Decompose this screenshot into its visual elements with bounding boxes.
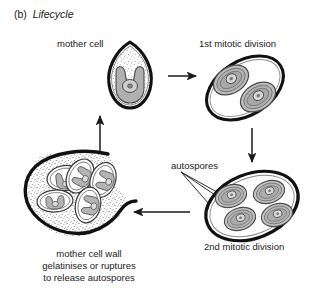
caption-line-1: mother cell wall: [14, 248, 164, 260]
stage-second-mitotic-division: [196, 158, 309, 253]
stage-first-mitotic-division: [195, 43, 295, 133]
caption-release-autospores: mother cell wall gelatinises or ruptures…: [14, 248, 164, 284]
stage-mother-cell: [109, 42, 152, 108]
label-second-mitotic-division: 2nd mitotic division: [204, 241, 284, 253]
lifecycle-figure: (b) Lifecycle mother cell 1st mitotic di…: [0, 0, 316, 302]
label-mother-cell: mother cell: [57, 38, 103, 50]
second-division-wall: [196, 158, 309, 253]
first-division-wall: [195, 43, 295, 133]
label-first-mitotic-division: 1st mitotic division: [199, 38, 276, 50]
stage-released-autospores: [25, 151, 136, 236]
panel-title: Lifecycle: [33, 8, 74, 20]
caption-line-3: to release autospores: [14, 272, 164, 284]
panel-letter: (b): [14, 8, 27, 20]
panel-label: (b) Lifecycle: [14, 8, 74, 21]
label-autospores: autospores: [171, 160, 218, 172]
caption-line-2: gelatinises or ruptures: [14, 260, 164, 272]
mother-cell-pyrenoid-core: [128, 84, 133, 88]
